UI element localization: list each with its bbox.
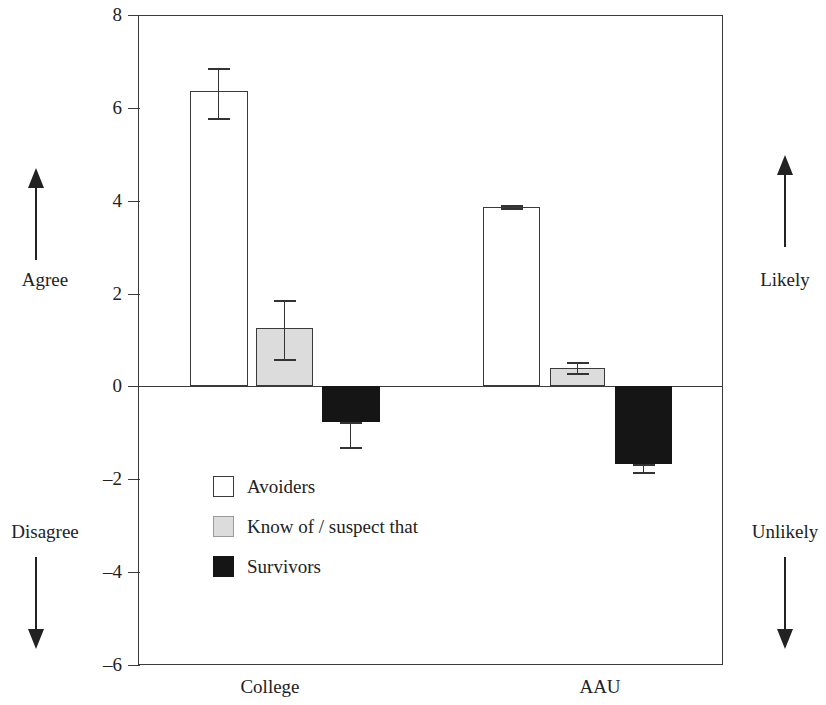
y-axis-tick (128, 572, 140, 573)
y-axis-tick-label: –6 (80, 655, 122, 674)
up-arrow-icon-likely (773, 155, 797, 247)
error-bar-cap-lower (208, 118, 230, 120)
legend-label: Know of / suspect that (247, 516, 418, 537)
down-arrow-icon-unlikely (773, 557, 797, 649)
bar-college-series-2 (256, 328, 313, 386)
legend-swatch-black (213, 556, 234, 577)
error-bar-cap-upper (567, 362, 589, 364)
error-bar-cap-lower (567, 373, 589, 375)
error-bar-cap-upper (501, 205, 523, 207)
annotation-agree: Agree (10, 269, 80, 291)
chart-legend: AvoidersKnow of / suspect thatSurvivors (213, 466, 418, 586)
y-axis-tick (128, 479, 140, 480)
y-axis-tick (128, 665, 140, 666)
error-bar-cap-lower (501, 208, 523, 210)
error-bar-stem (350, 422, 351, 447)
legend-label: Survivors (247, 556, 321, 577)
legend-item: Survivors (213, 546, 418, 586)
legend-item: Avoiders (213, 466, 418, 506)
error-bar-cap-lower (340, 447, 362, 449)
y-axis-tick-label: –2 (80, 469, 122, 488)
y-axis-tick-label: 0 (80, 376, 122, 395)
bar-college-series-3 (322, 386, 380, 422)
error-bar-cap-upper (208, 68, 230, 70)
error-bar-cap-upper (633, 464, 655, 466)
annotation-disagree: Disagree (2, 521, 88, 543)
y-axis-tick-label: –4 (80, 562, 122, 581)
annotation-unlikely: Unlikely (742, 521, 826, 543)
error-bar-stem (218, 68, 219, 118)
legend-item: Know of / suspect that (213, 506, 418, 546)
error-bar-cap-upper (340, 422, 362, 424)
x-axis-label-aau: AAU (520, 676, 680, 698)
bar-chart-figure: 86420–2–4–6 College AAU Agree Disagree L… (0, 0, 826, 705)
y-axis-tick-label: 8 (80, 5, 122, 24)
legend-label: Avoiders (247, 476, 315, 497)
bar-aau-series-1 (483, 207, 540, 387)
y-axis-tick (128, 201, 140, 202)
y-axis-tick-label: 2 (80, 284, 122, 303)
error-bar-stem (284, 300, 285, 359)
down-arrow-icon-disagree (24, 557, 48, 649)
legend-swatch-gray (213, 516, 234, 537)
annotation-likely: Likely (748, 269, 822, 291)
error-bar-cap-lower (274, 359, 296, 361)
bar-aau-series-3 (615, 386, 672, 464)
y-axis-tick-label: 6 (80, 98, 122, 117)
bar-aau-series-2 (550, 368, 605, 386)
y-axis-tick-label: 4 (80, 191, 122, 210)
legend-swatch-white (213, 476, 234, 497)
up-arrow-icon-agree (24, 168, 48, 260)
x-axis-label-college: College (190, 676, 350, 698)
y-axis-tick (128, 294, 140, 295)
error-bar-cap-upper (274, 300, 296, 302)
y-axis-tick (128, 108, 140, 109)
bar-college-series-1 (190, 91, 248, 387)
y-axis-tick (128, 15, 140, 16)
error-bar-cap-lower (633, 472, 655, 474)
